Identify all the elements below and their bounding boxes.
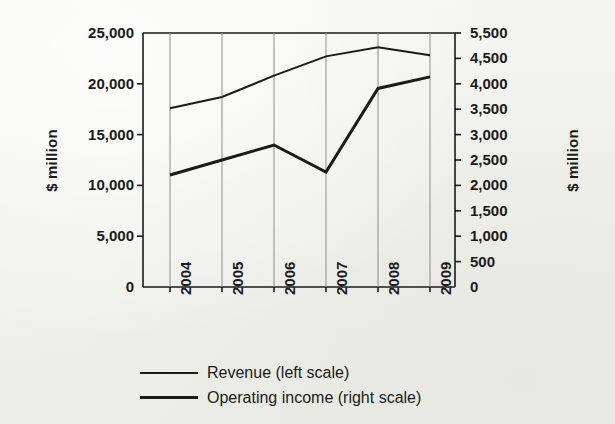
chart-legend: Revenue (left scale) Operating income (r… <box>140 360 560 410</box>
line-chart-figure: $ million $ million 05,00010,00015,00020… <box>0 0 615 424</box>
legend-label-revenue: Revenue (left scale) <box>207 364 349 382</box>
legend-line-swatch-revenue <box>140 366 198 380</box>
series-line-operating-income <box>170 77 430 175</box>
legend-item-revenue[interactable]: Revenue (left scale) <box>140 360 560 385</box>
legend-item-operating-income[interactable]: Operating income (right scale) <box>140 385 560 410</box>
legend-line-swatch-operating-income <box>140 391 198 405</box>
legend-label-operating-income: Operating income (right scale) <box>207 389 421 407</box>
series-line-revenue <box>170 47 430 108</box>
